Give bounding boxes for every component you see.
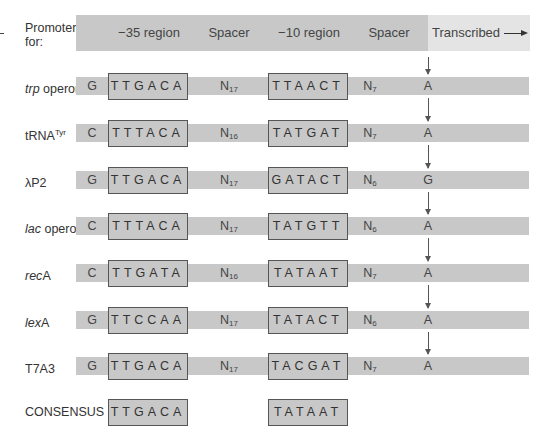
header-label: Promoter for:: [25, 21, 75, 49]
minus35-box: TTGACA: [108, 167, 188, 194]
right-arrow-icon: [504, 33, 526, 34]
transcription-start-arrow-icon: [428, 145, 429, 168]
promoter-name: T7A3: [25, 356, 55, 376]
spacer2: N7: [350, 77, 390, 95]
header-transcribed: Transcribed: [428, 15, 530, 51]
spacer1: N17: [190, 171, 268, 189]
start-base: G: [418, 171, 438, 189]
header-minus10: −10 region: [268, 15, 350, 51]
minus35-box: TTGATA: [108, 260, 188, 287]
start-base: A: [418, 124, 438, 142]
minus10-box: TATGTT: [268, 213, 348, 240]
spacer1: N17: [190, 77, 268, 95]
start-base: A: [418, 77, 438, 95]
header-spacer1: Spacer: [190, 15, 268, 51]
leading-base: G: [76, 77, 108, 95]
transcription-start-arrow-icon: [428, 238, 429, 261]
leading-base: G: [76, 311, 108, 329]
header-spacer2: Spacer: [350, 15, 428, 51]
leading-base: C: [76, 217, 108, 235]
spacer1: N16: [190, 264, 268, 282]
header-minus35: −35 region: [108, 15, 190, 51]
spacer1: N17: [190, 217, 268, 235]
minus10-box: GATACT: [268, 167, 348, 194]
spacer2: N6: [350, 311, 390, 329]
spacer2: N6: [350, 171, 390, 189]
promoter-name: λP2: [25, 170, 47, 190]
spacer1: N17: [190, 311, 268, 329]
leading-base: G: [76, 171, 108, 189]
minus35-box: TTTACA: [108, 120, 188, 147]
minus10-box: TATGAT: [268, 120, 348, 147]
transcription-start-arrow-icon: [428, 57, 429, 74]
start-base: A: [418, 311, 438, 329]
minus10-box: TTAACT: [268, 73, 348, 100]
spacer2: N7: [350, 124, 390, 142]
promoter-name: lexA: [25, 310, 49, 330]
minus35-box: TTCCAA: [108, 307, 188, 334]
minus10-box: TACGAT: [268, 353, 348, 380]
minus10-box: TATACT: [268, 307, 348, 334]
spacer1: N16: [190, 124, 268, 142]
promoter-name: lac operon: [25, 216, 83, 236]
transcription-start-arrow-icon: [428, 98, 429, 121]
start-base: A: [418, 264, 438, 282]
leading-base: G: [76, 357, 108, 375]
start-base: A: [418, 357, 438, 375]
minus35-box: TTGACA: [108, 73, 188, 100]
consensus-label: CONSENSUS: [25, 402, 104, 422]
leading-base: C: [76, 264, 108, 282]
promoter-name: trp operon: [25, 76, 82, 96]
margin-tick: [0, 33, 4, 34]
promoter-name: recA: [25, 263, 51, 283]
promoter-name: tRNATyr: [25, 123, 66, 143]
transcription-start-arrow-icon: [428, 332, 429, 354]
minus10-box: TATAAT: [268, 260, 348, 287]
consensus-minus35-box: TTGACA: [108, 399, 188, 426]
spacer1: N17: [190, 357, 268, 375]
spacer2: N6: [350, 217, 390, 235]
transcription-start-arrow-icon: [428, 192, 429, 214]
spacer2: N7: [350, 357, 390, 375]
spacer2: N7: [350, 264, 390, 282]
leading-base: C: [76, 124, 108, 142]
start-base: A: [418, 217, 438, 235]
minus35-box: TTGACA: [108, 353, 188, 380]
transcription-start-arrow-icon: [428, 285, 429, 308]
consensus-minus10-box: TATAAT: [268, 399, 348, 426]
minus35-box: TTTACA: [108, 213, 188, 240]
